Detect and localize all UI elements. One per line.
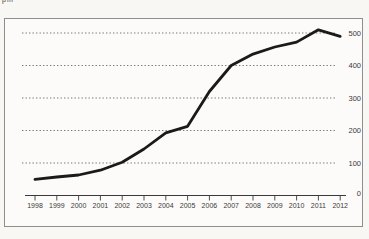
- x-axis-year-label: 2012: [332, 202, 348, 209]
- y-axis-label: 500: [348, 29, 361, 38]
- x-axis-year-label: 2003: [136, 202, 152, 209]
- y-axis-label: 300: [348, 94, 361, 103]
- x-axis-year-label: 1998: [27, 202, 43, 209]
- x-axis-year-label: 2001: [93, 202, 109, 209]
- page: pm 0100200300400500199819992000200120022…: [0, 0, 369, 239]
- x-axis-year-label: 2010: [289, 202, 305, 209]
- y-axis-label: 400: [348, 61, 361, 70]
- x-axis-year-label: 2008: [245, 202, 261, 209]
- x-axis-year-label: 2005: [180, 202, 196, 209]
- x-axis-year-label: 2000: [71, 202, 87, 209]
- x-axis-year-label: 2006: [202, 202, 218, 209]
- y-axis-label: 0: [357, 189, 361, 198]
- data-line: [35, 30, 340, 180]
- x-axis-year-label: 2002: [114, 202, 130, 209]
- x-axis-year-label: 2007: [223, 202, 239, 209]
- x-axis-year-label: 2011: [311, 202, 326, 209]
- y-axis-label: 200: [348, 126, 361, 135]
- line-chart: 0100200300400500199819992000200120022003…: [0, 0, 369, 239]
- x-axis-year-label: 1999: [49, 202, 65, 209]
- y-axis-label: 100: [348, 159, 361, 168]
- x-axis-year-label: 2004: [158, 202, 174, 209]
- x-axis-year-label: 2009: [267, 202, 283, 209]
